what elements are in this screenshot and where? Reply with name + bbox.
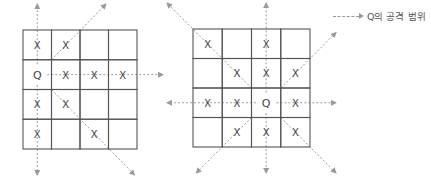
attack-range-arrow [281,33,336,89]
board-cell [109,119,138,149]
board-left: XXQXXXXXXX [23,4,163,175]
attacked-marker: X [34,40,41,51]
attacked-marker: X [233,68,240,79]
attacked-marker: X [263,68,270,79]
attacked-marker: X [204,39,211,50]
attacked-marker: X [292,68,299,79]
attacked-marker: X [34,99,41,110]
board-cell [80,30,109,60]
legend: Q의 공격 범위 [333,9,426,23]
attacked-marker: X [233,127,240,138]
attacked-marker: X [292,98,299,109]
board-cell [80,90,109,120]
attacked-marker: X [91,129,98,140]
attacked-marker: X [62,99,69,110]
board-cell [109,90,138,120]
attack-range-arrow [52,4,107,60]
dashed-arrow-icon [333,16,359,17]
attacked-marker: X [292,127,299,138]
attack-range-arrow [196,118,251,174]
board-cell [193,118,222,148]
attacked-marker: X [62,70,69,81]
queen-marker: Q [262,97,271,110]
board-cell [193,59,222,89]
attack-range-arrow [281,118,336,174]
board-cell [281,29,310,59]
attacked-marker: X [34,129,41,140]
attacked-marker: X [204,98,211,109]
board-cell [222,29,251,59]
attacked-marker: X [233,98,240,109]
attacked-marker: X [62,40,69,51]
attacked-marker: X [263,39,270,50]
board-cell [52,119,81,149]
attacked-marker: X [91,70,98,81]
attacked-marker: X [263,127,270,138]
attacked-marker: X [119,70,126,81]
queen-marker: Q [33,69,42,82]
board-cell [109,30,138,60]
board-right: XXXXXXXQXXXX [167,3,336,173]
legend-label: Q의 공격 범위 [367,9,426,23]
diagram-canvas: XXQXXXXXXX XXXXXXXQXXXX [0,0,431,177]
